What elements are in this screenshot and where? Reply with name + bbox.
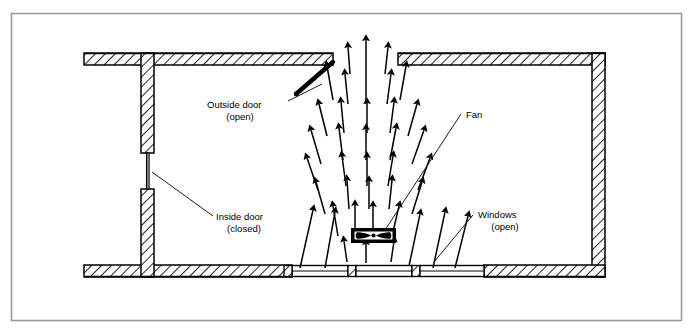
fan-hub — [371, 233, 375, 237]
window-mullion-2 — [412, 266, 420, 277]
left-wall-lower — [141, 189, 154, 277]
right-wall — [592, 53, 605, 277]
top-wall-left-segment — [84, 53, 333, 65]
label-inside-door-line1: Inside door — [216, 211, 263, 222]
bottom-wall-solid-right — [484, 265, 605, 277]
leader-inside-door — [152, 172, 213, 216]
airflow-floor-plan-svg: Outside door (open) Inside door (closed)… — [0, 0, 693, 335]
label-outside-door: Outside door (open) — [207, 99, 261, 122]
label-outside-door-line2: (open) — [226, 111, 253, 122]
label-outside-door-line1: Outside door — [207, 99, 261, 110]
label-windows-line1: Windows — [478, 209, 517, 220]
window-pane-3[interactable] — [420, 266, 484, 277]
label-windows-line2: (open) — [491, 221, 518, 232]
label-fan-line1: Fan — [466, 109, 482, 120]
window-pane-2[interactable] — [356, 266, 412, 277]
label-fan: Fan — [466, 109, 482, 120]
top-wall-right-segment — [398, 53, 605, 65]
left-wall-upper — [141, 53, 154, 153]
window-mullion-1 — [348, 266, 356, 277]
label-inside-door-line2: (closed) — [227, 223, 261, 234]
bottom-wall-solid — [84, 265, 292, 277]
diagram-canvas: Outside door (open) Inside door (closed)… — [0, 0, 693, 335]
label-windows: Windows (open) — [478, 209, 519, 232]
fan-unit[interactable] — [351, 228, 396, 243]
window-mullion-0 — [284, 266, 292, 277]
windows-open-group[interactable] — [284, 266, 484, 277]
label-inside-door: Inside door (closed) — [216, 211, 263, 234]
inside-door-closed[interactable] — [147, 153, 150, 189]
